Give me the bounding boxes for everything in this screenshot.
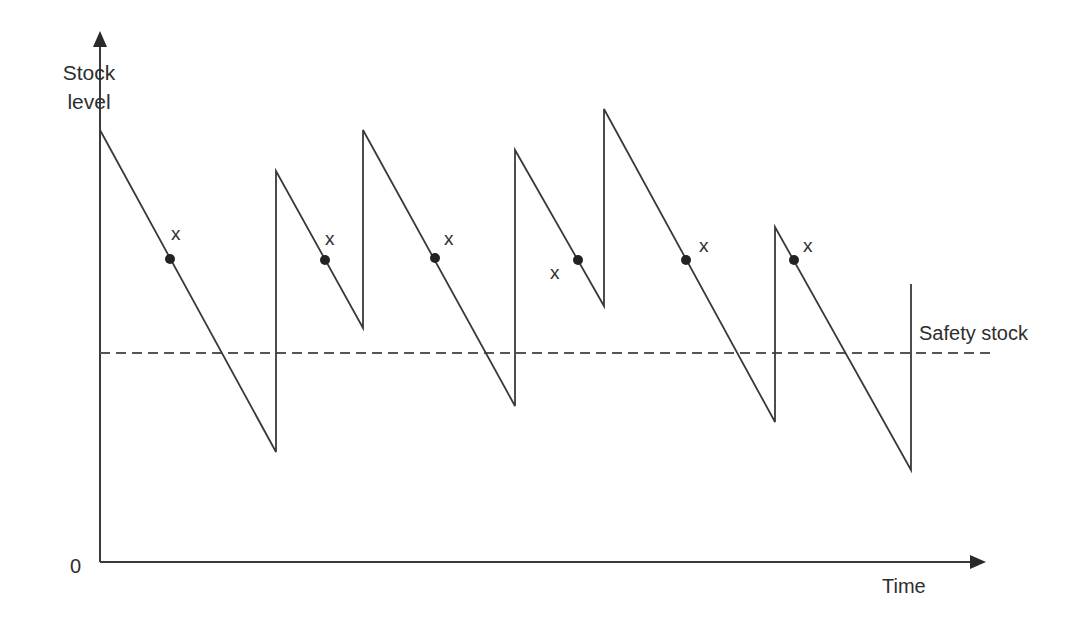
stock-level-diagram [0, 0, 1073, 630]
reorder-point-dot [789, 255, 799, 265]
reorder-point-dot [165, 254, 175, 264]
reorder-point-dot [573, 255, 583, 265]
y-axis-label: Stock level [54, 58, 124, 116]
reorder-point-dot [320, 255, 330, 265]
reorder-marker-label: x [325, 228, 335, 250]
reorder-marker-label: x [171, 223, 181, 245]
origin-label: 0 [70, 554, 81, 578]
reorder-point-dot [430, 253, 440, 263]
safety-stock-label: Safety stock [919, 321, 1028, 345]
reorder-marker-label: x [550, 262, 560, 284]
y-axis-label-line1: Stock [54, 58, 124, 87]
reorder-marker-label: x [444, 228, 454, 250]
reorder-marker-label: x [803, 235, 813, 257]
y-axis-label-line2: level [54, 87, 124, 116]
x-axis-label: Time [882, 574, 926, 598]
reorder-marker-label: x [699, 235, 709, 257]
x-axis-arrow-icon [970, 555, 986, 569]
reorder-point-dot [681, 255, 691, 265]
stock-level-line [100, 109, 911, 470]
y-axis-arrow-icon [93, 31, 107, 47]
